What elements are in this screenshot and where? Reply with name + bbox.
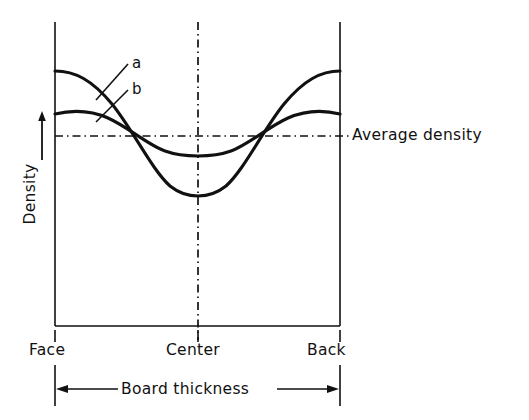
x-tick-label-face: Face	[29, 341, 65, 359]
density-profile-figure: Density a b Average density Face Center …	[0, 0, 529, 420]
density-arrow-icon	[38, 111, 46, 160]
x-tick-label-back: Back	[307, 341, 346, 359]
board-thickness-label: Board thickness	[118, 380, 252, 398]
curve-a-label: a	[132, 54, 142, 72]
figure-canvas	[0, 0, 529, 420]
x-tick-label-center: Center	[166, 341, 220, 359]
arrowhead-right-icon	[327, 385, 339, 393]
y-axis-label: Density	[21, 149, 39, 239]
average-density-label: Average density	[352, 126, 482, 144]
curve-b-label: b	[132, 80, 142, 98]
arrowhead-left-icon	[56, 385, 68, 393]
